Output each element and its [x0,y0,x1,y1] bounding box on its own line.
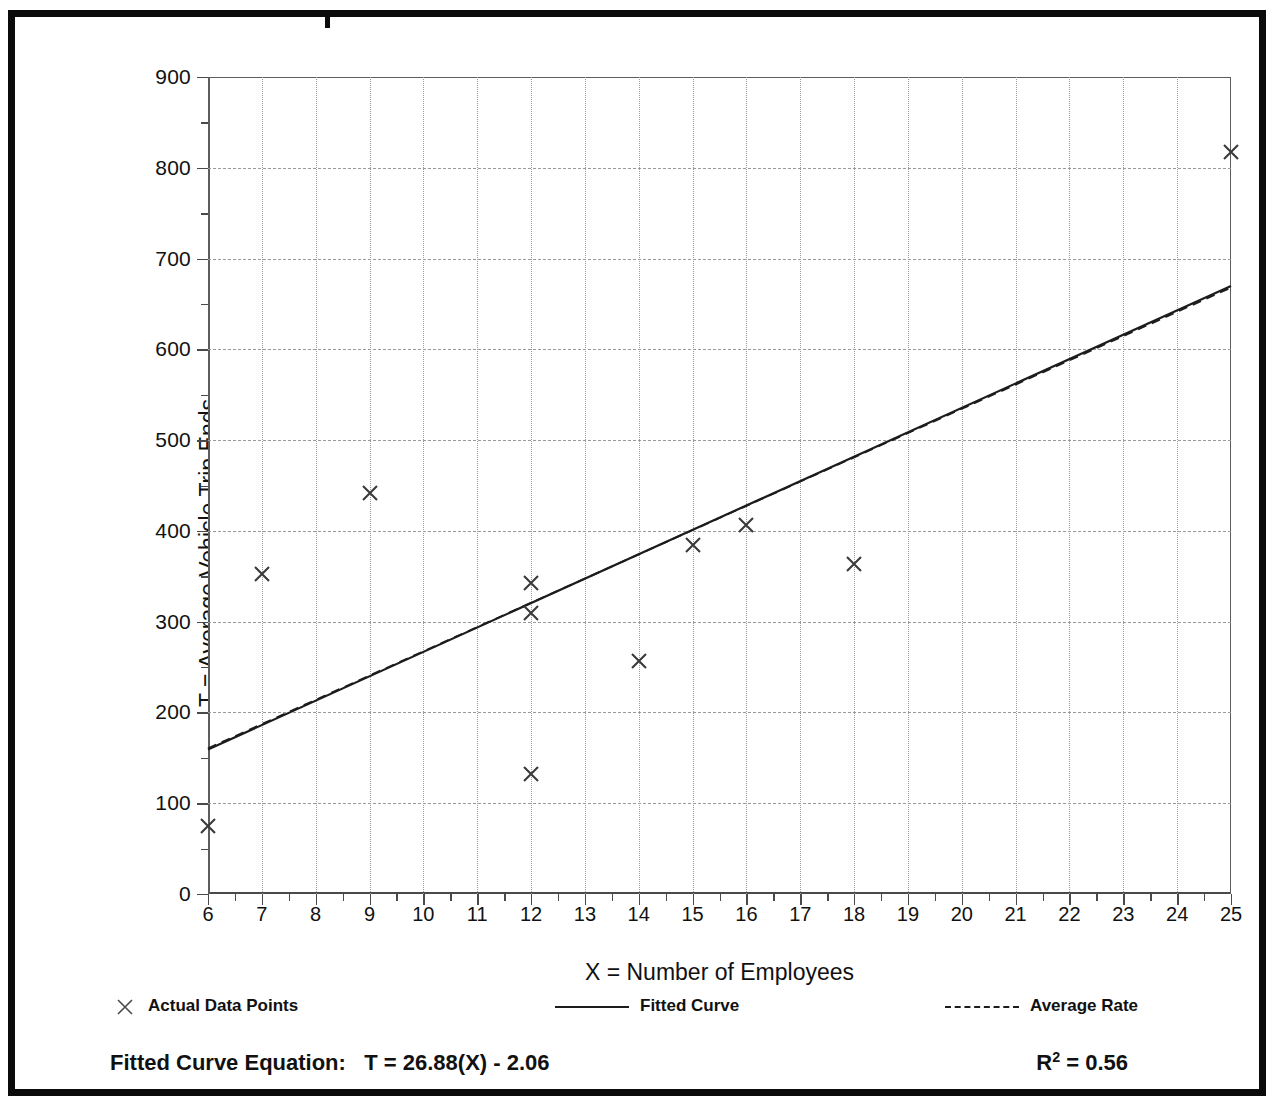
r-squared-value: R2 = 0.56 [1036,1049,1128,1076]
x-axis-minor-tick [1150,894,1151,901]
x-axis-minor-tick [989,894,990,901]
y-tick-label: 0 [179,882,191,906]
data-point-marker [845,555,864,574]
x-axis-minor-tick [558,894,559,901]
equation-label: Fitted Curve Equation: [110,1050,346,1075]
data-point-marker [1222,143,1241,162]
y-tick-label: 300 [155,610,191,634]
x-tick-label: 22 [1058,903,1080,926]
x-axis-minor-tick [1204,894,1205,901]
data-point-marker [360,483,379,502]
solid-line-icon [555,997,629,1015]
x-tick-label: 13 [574,903,596,926]
x-tick-label: 18 [843,903,865,926]
x-tick-label: 25 [1220,903,1242,926]
x-tick-label: 23 [1112,903,1134,926]
x-axis-minor-tick [881,894,882,901]
x-axis-minor-tick [343,894,344,901]
chart-legend: Actual Data Points Fitted Curve Average … [115,996,1215,1022]
x-tick-label: 19 [897,903,919,926]
legend-item-actual-data-points: Actual Data Points [115,996,298,1016]
y-axis-tick [197,712,208,713]
x-axis-minor-tick [235,894,236,901]
y-axis-tick [197,531,208,532]
x-tick-label: 16 [735,903,757,926]
y-tick-label: 400 [155,519,191,543]
x-tick-label: 6 [202,903,213,926]
y-axis-minor-tick [201,304,208,305]
y-axis-minor-tick [201,849,208,850]
chart-page: T = Average Vehicle Trip Ends 0100200300… [0,0,1276,1108]
y-axis-tick [197,77,208,78]
data-point-marker [199,816,218,835]
y-tick-label: 900 [155,65,191,89]
r-symbol: R [1036,1050,1052,1075]
y-tick-label: 100 [155,791,191,815]
x-axis-minor-tick [827,894,828,901]
x-tick-label: 8 [310,903,321,926]
equation-value: T = 26.88(X) - 2.06 [364,1050,549,1075]
y-tick-label: 800 [155,156,191,180]
x-marker-icon [115,997,137,1015]
x-axis-minor-tick [612,894,613,901]
x-axis-minor-tick [720,894,721,901]
y-axis-tick [197,349,208,350]
data-point-marker [683,535,702,554]
plot-area: 0100200300400500600700800900 67891011121… [208,77,1231,894]
data-point-marker [629,651,648,670]
x-axis-minor-tick [450,894,451,901]
fitted-curve-equation: Fitted Curve Equation: T = 26.88(X) - 2.… [110,1050,550,1076]
data-point-marker [522,603,541,622]
data-point-marker [522,573,541,592]
data-point-marker [252,565,271,584]
x-axis-minor-tick [773,894,774,901]
x-tick-label: 11 [467,903,488,926]
y-tick-label: 200 [155,700,191,724]
x-tick-label: 9 [364,903,375,926]
legend-label: Fitted Curve [640,996,739,1016]
x-tick-label: 15 [681,903,703,926]
x-axis-minor-tick [1043,894,1044,901]
x-axis-minor-tick [396,894,397,901]
y-axis-tick [197,803,208,804]
y-axis-tick [197,622,208,623]
x-tick-label: 10 [412,903,434,926]
x-axis-minor-tick [504,894,505,901]
x-axis-minor-tick [935,894,936,901]
y-tick-label: 500 [155,428,191,452]
y-axis-minor-tick [201,667,208,668]
equation-footer: Fitted Curve Equation: T = 26.88(X) - 2.… [110,1049,1220,1076]
legend-label: Actual Data Points [148,996,298,1016]
y-axis-tick [197,259,208,260]
x-tick-label: 24 [1166,903,1188,926]
x-tick-label: 21 [1005,903,1027,926]
y-axis-minor-tick [201,395,208,396]
x-tick-label: 12 [520,903,542,926]
x-axis-minor-tick [666,894,667,901]
x-tick-label: 20 [951,903,973,926]
legend-item-average-rate: Average Rate [945,996,1138,1016]
y-axis-minor-tick [201,213,208,214]
y-axis-minor-tick [201,486,208,487]
x-axis-minor-tick [289,894,290,901]
y-axis-tick [197,168,208,169]
frame-top-tick-mark [325,17,330,28]
x-tick-label: 7 [256,903,267,926]
legend-label: Average Rate [1030,996,1138,1016]
y-axis-minor-tick [201,576,208,577]
legend-item-fitted-curve: Fitted Curve [555,996,739,1016]
y-axis-minor-tick [201,758,208,759]
x-axis-title: X = Number of Employees [208,959,1231,986]
x-axis-minor-tick [1096,894,1097,901]
y-axis-tick [197,440,208,441]
dashed-line-icon [945,997,1019,1015]
r-exponent: 2 [1052,1049,1060,1065]
chart-outer-frame: T = Average Vehicle Trip Ends 0100200300… [8,10,1266,1096]
average-rate-line [208,288,1231,749]
y-tick-label: 600 [155,337,191,361]
x-tick-label: 14 [628,903,650,926]
y-axis-minor-tick [201,122,208,123]
data-point-marker [737,516,756,535]
r-value: = 0.56 [1066,1050,1128,1075]
data-point-marker [522,765,541,784]
